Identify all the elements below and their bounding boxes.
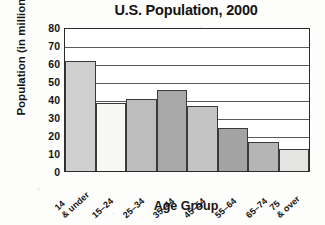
y-tick-50: 50 [32,76,60,88]
x-axis-tick-labels: 14& under15–2425–3435–4445–5455–6465–747… [64,174,310,220]
y-tick-10: 10 [32,148,60,160]
bar [157,90,188,171]
bar [126,99,157,171]
y-tick-70: 70 [32,40,60,52]
y-tick-20: 20 [32,130,60,142]
y-tick-30: 30 [32,112,60,124]
bar [65,61,96,171]
bar [218,128,249,171]
y-axis-tick-labels: 01020304050607080 [32,0,60,225]
y-axis-title: Population (in millions) [15,0,27,127]
bar [248,142,279,171]
bar [96,103,127,171]
y-tick-60: 60 [32,58,60,70]
plot-area [64,28,310,172]
y-tick-80: 80 [32,22,60,34]
bar-chart: U.S. Population, 2000 Population (in mil… [0,0,325,225]
y-tick-40: 40 [32,94,60,106]
bar-series [65,29,309,171]
chart-title: U.S. Population, 2000 [60,2,312,18]
bar [187,106,218,171]
y-tick-0: 0 [32,166,60,178]
x-axis-title: Age Group [60,199,312,213]
bar [279,149,310,171]
